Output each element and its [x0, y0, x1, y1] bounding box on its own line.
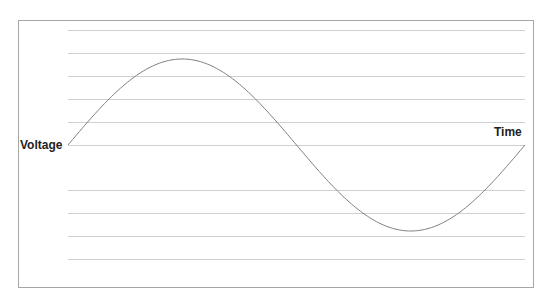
sine-wave-plot	[0, 0, 555, 307]
y-axis-label: Voltage	[20, 138, 62, 152]
x-axis-label: Time	[494, 125, 522, 139]
